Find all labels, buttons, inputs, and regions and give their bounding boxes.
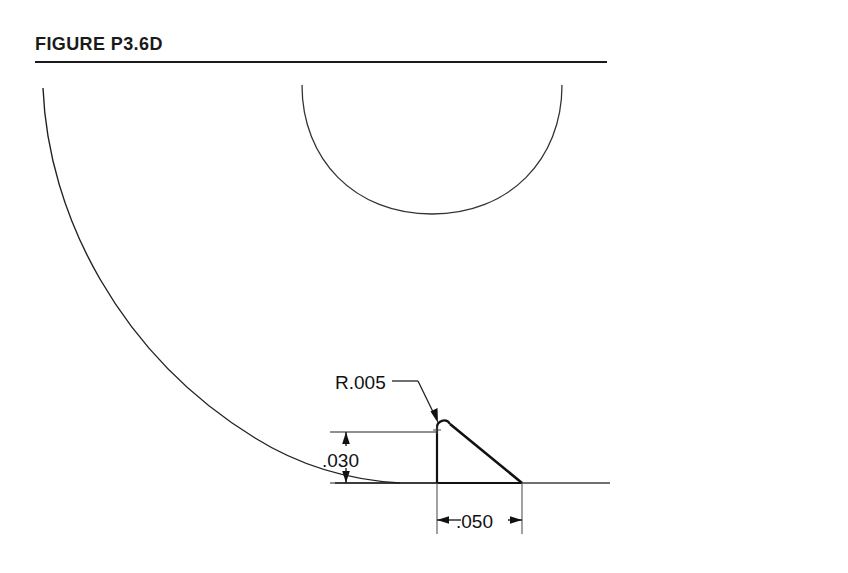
height-arrowhead-up bbox=[342, 432, 350, 444]
triangle-hypotenuse bbox=[450, 424, 522, 483]
width-arrowhead-left bbox=[437, 516, 449, 523]
figure-page: FIGURE P3.6D .030 bbox=[0, 0, 848, 573]
height-dimension-label: .030 bbox=[322, 450, 359, 471]
width-arrowhead-right bbox=[510, 516, 522, 523]
apex-fillet-arc bbox=[437, 421, 450, 428]
width-dimension-label: .050 bbox=[456, 511, 493, 532]
radius-dimension-label: R.005 bbox=[335, 372, 386, 393]
height-arrowhead-down bbox=[342, 471, 350, 483]
technical-drawing: .030 .050 R.005 bbox=[0, 0, 848, 573]
large-profile-arc bbox=[43, 88, 400, 483]
upper-semicircle-arc bbox=[302, 85, 562, 214]
